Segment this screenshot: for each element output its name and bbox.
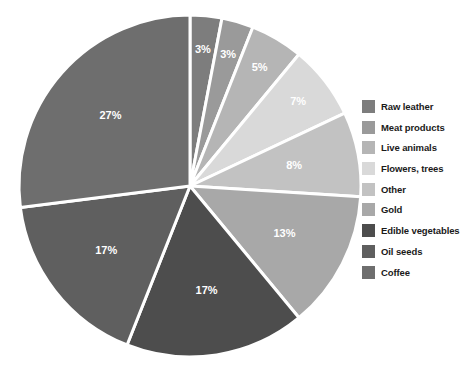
legend-item-label: Oil seeds (381, 245, 422, 258)
pie-chart-figure: 3%3%5%7%8%13%17%17%27% Raw leatherMeat p… (0, 0, 463, 370)
legend-item-label: Meat products (381, 121, 445, 134)
pie-slice-label: 3% (220, 48, 236, 60)
legend-item-label: Coffee (381, 266, 410, 279)
pie-slice-label: 13% (273, 227, 295, 239)
pie-slice-group (19, 15, 361, 357)
legend-swatch-icon (362, 203, 375, 216)
legend-item[interactable]: Raw leather (362, 100, 463, 113)
legend-item[interactable]: Other (362, 183, 463, 196)
legend-item[interactable]: Meat products (362, 121, 463, 134)
legend-swatch-icon (362, 162, 375, 175)
legend-swatch-icon (362, 100, 375, 113)
pie-slice-label: 17% (95, 244, 117, 256)
legend-item[interactable]: Coffee (362, 266, 463, 279)
pie-slice-label: 5% (252, 61, 268, 73)
legend-item[interactable]: Oil seeds (362, 245, 463, 258)
pie-slice-label: 17% (196, 284, 218, 296)
legend-item[interactable]: Live animals (362, 141, 463, 154)
pie-slice-label: 8% (286, 159, 302, 171)
legend-item[interactable]: Edible vegetables (362, 224, 463, 237)
legend-swatch-icon (362, 245, 375, 258)
legend-item[interactable]: Flowers, trees (362, 162, 463, 175)
legend-item-label: Raw leather (381, 100, 433, 113)
legend-swatch-icon (362, 266, 375, 279)
legend-swatch-icon (362, 183, 375, 196)
legend-item-label: Flowers, trees (381, 162, 444, 175)
legend-item-label: Other (381, 183, 406, 196)
pie-slice-label: 7% (290, 95, 306, 107)
legend-swatch-icon (362, 121, 375, 134)
legend-swatch-icon (362, 224, 375, 237)
chart-legend: Raw leatherMeat productsLive animalsFlow… (362, 100, 463, 286)
legend-item-label: Gold (381, 203, 402, 216)
pie-slice-label: 3% (195, 43, 211, 55)
legend-item[interactable]: Gold (362, 203, 463, 216)
legend-swatch-icon (362, 141, 375, 154)
legend-item-label: Live animals (381, 141, 437, 154)
legend-item-label: Edible vegetables (381, 224, 460, 237)
pie-slice-label: 27% (99, 109, 121, 121)
